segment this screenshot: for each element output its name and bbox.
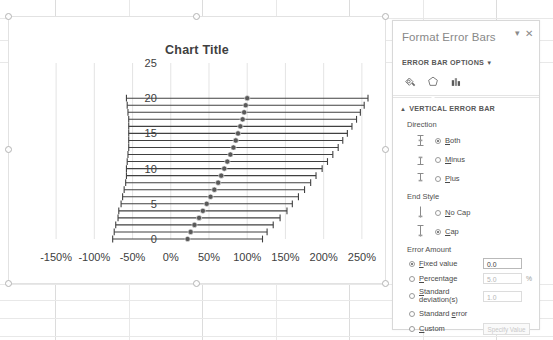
active-tab-pointer [429,96,437,100]
task-pane-header: Format Error Bars ▾ ✕ [393,21,539,47]
direction-both-label: Both [445,136,460,145]
error-bar-cap-icon [415,224,426,239]
direction-option-plus[interactable]: Plus [393,169,539,188]
data-point-marker[interactable] [231,145,236,150]
error-bar-plus-icon [415,171,426,186]
chart-plot-area[interactable]: 0510152025-150%-100%-50%0%50%100%150%200… [9,17,385,283]
radio-both[interactable] [435,138,441,144]
x-axis-tick-label: 0% [163,251,179,263]
radio-cap[interactable] [435,229,441,235]
end-style-option-no-cap[interactable]: No Cap [393,203,539,222]
custom-label: Custom [419,325,445,333]
resize-handle-top-left[interactable] [5,13,12,20]
radio-standard-deviations[interactable] [409,293,415,299]
error-amount-option-standard-error[interactable]: Standard error [393,306,539,321]
x-axis-tick-label: -150% [40,251,72,263]
icon-row-underline [393,95,539,96]
section-title: VERTICAL ERROR BAR [409,104,495,113]
collapse-caret-icon[interactable]: ▲ [400,106,406,112]
error-bar-options-icon[interactable] [449,74,463,89]
y-axis-tick-label: 0 [151,233,157,245]
task-pane-title: Format Error Bars [402,31,496,43]
end-style-group-label: End Style [393,188,539,203]
data-point-marker[interactable] [219,173,224,178]
effects-icon[interactable] [426,74,440,89]
error-amount-option-percentage[interactable]: Percentage 5.0 % [393,271,539,286]
data-point-marker[interactable] [200,208,205,213]
percentage-label: Percentage [419,275,457,283]
direction-option-both[interactable]: Both [393,131,539,150]
y-axis-tick-label: 25 [145,57,157,69]
x-axis-tick-label: 100% [233,251,261,263]
fixed-value-label: Fixed value [419,260,457,268]
vertical-error-bar-section-header[interactable]: ▲ VERTICAL ERROR BAR [393,98,539,116]
data-point-marker[interactable] [233,138,238,143]
direction-option-minus[interactable]: Minus [393,150,539,169]
resize-handle-middle-left[interactable] [5,146,12,153]
resize-handle-bottom-right[interactable] [382,280,389,287]
data-point-marker[interactable] [235,131,240,136]
resize-handle-bottom-left[interactable] [5,280,12,287]
format-error-bars-task-pane[interactable]: Format Error Bars ▾ ✕ ERROR BAR OPTIONS▼… [392,20,540,330]
data-point-marker[interactable] [228,152,233,157]
percent-sign-label: % [526,275,532,282]
standard-deviations-label: Standarddeviation(s) [419,288,471,304]
specify-value-button[interactable]: Specify Value [483,323,530,335]
resize-handle-top-center[interactable] [193,13,200,20]
resize-handle-bottom-center[interactable] [193,280,200,287]
direction-plus-label: Plus [445,174,460,183]
resize-handle-middle-right[interactable] [382,146,389,153]
radio-percentage[interactable] [409,276,415,282]
standard-error-label: Standard error [419,310,467,318]
y-axis-tick-label: 10 [145,163,157,175]
radio-standard-error[interactable] [409,311,415,317]
end-style-no-cap-label: No Cap [445,208,470,217]
x-axis-tick-label: 50% [198,251,220,263]
error-amount-option-standard-deviations[interactable]: Standarddeviation(s) 1.0 [393,286,539,306]
error-amount-option-fixed-value[interactable]: Fixed value 0.0 [393,256,539,271]
radio-custom[interactable] [409,326,415,332]
data-point-marker[interactable] [243,103,248,108]
fixed-value-input[interactable]: 0.0 [483,258,522,269]
radio-fixed-value[interactable] [409,261,415,267]
chart-object[interactable]: Chart Title 0510152025-150%-100%-50%0%50… [8,16,386,284]
radio-no-cap[interactable] [435,210,441,216]
task-pane-icon-tabs[interactable] [393,69,539,93]
direction-minus-label: Minus [445,155,465,164]
resize-handle-top-right[interactable] [382,13,389,20]
data-point-marker[interactable] [242,110,247,115]
end-style-cap-label: Cap [445,227,459,236]
data-point-marker[interactable] [238,124,243,129]
data-point-marker[interactable] [222,166,227,171]
error-bar-options-label: ERROR BAR OPTIONS [402,58,484,67]
percentage-input[interactable]: 5.0 [483,273,522,284]
error-bar-options-dropdown[interactable]: ERROR BAR OPTIONS▼ [393,47,539,69]
data-point-marker[interactable] [245,96,250,101]
data-point-marker[interactable] [185,236,190,241]
end-style-option-cap[interactable]: Cap [393,222,539,241]
data-point-marker[interactable] [240,117,245,122]
x-axis-tick-label: 200% [310,251,338,263]
data-point-marker[interactable] [196,215,201,220]
error-amount-option-custom[interactable]: Custom Specify Value [393,321,539,337]
data-point-marker[interactable] [192,222,197,227]
data-point-marker[interactable] [208,194,213,199]
error-amount-group-label: Error Amount [393,241,539,256]
chevron-down-icon[interactable]: ▾ [515,28,520,38]
x-axis-tick-label: 250% [348,251,376,263]
standard-deviations-input[interactable]: 1.0 [483,291,522,302]
radio-plus[interactable] [435,176,441,182]
close-icon[interactable]: ✕ [525,28,533,39]
data-point-marker[interactable] [225,159,230,164]
y-axis-tick-label: 20 [145,92,157,104]
x-axis-tick-label: 150% [271,251,299,263]
chevron-down-icon[interactable]: ▼ [486,60,492,66]
data-point-marker[interactable] [204,201,209,206]
data-point-marker[interactable] [188,229,193,234]
data-point-marker[interactable] [216,180,221,185]
radio-minus[interactable] [435,157,441,163]
fill-and-line-icon[interactable] [403,74,417,89]
y-axis-tick-label: 5 [151,198,157,210]
error-bar-minus-icon [415,152,426,167]
data-point-marker[interactable] [212,187,217,192]
